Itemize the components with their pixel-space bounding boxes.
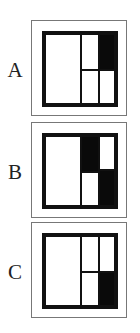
- bottom-middle-cell: [80, 69, 100, 105]
- grid-figure: [42, 133, 118, 209]
- bottom-middle-cell: [80, 271, 100, 307]
- bottom-middle-cell: [80, 171, 100, 207]
- top-middle-cell: [80, 135, 100, 173]
- option-frame: [31, 222, 127, 318]
- left-tall-cell: [44, 135, 82, 207]
- option-b[interactable]: B: [0, 122, 140, 223]
- grid-figure: [42, 233, 118, 309]
- option-frame: [31, 122, 127, 218]
- option-c[interactable]: C: [0, 222, 140, 323]
- top-right-cell: [98, 135, 116, 171]
- grid-figure: [42, 31, 118, 107]
- top-middle-cell: [80, 235, 100, 273]
- bottom-right-cell: [98, 69, 116, 105]
- option-label: C: [4, 262, 26, 283]
- bottom-right-cell: [98, 169, 116, 207]
- option-label: B: [4, 162, 26, 183]
- option-a[interactable]: A: [0, 20, 140, 121]
- option-frame: [31, 20, 127, 116]
- option-label: A: [4, 60, 26, 81]
- top-middle-cell: [80, 33, 100, 71]
- top-right-cell: [98, 235, 116, 273]
- left-tall-cell: [44, 235, 82, 307]
- bottom-right-cell: [98, 271, 116, 307]
- left-tall-cell: [44, 33, 82, 105]
- top-right-cell: [98, 33, 116, 71]
